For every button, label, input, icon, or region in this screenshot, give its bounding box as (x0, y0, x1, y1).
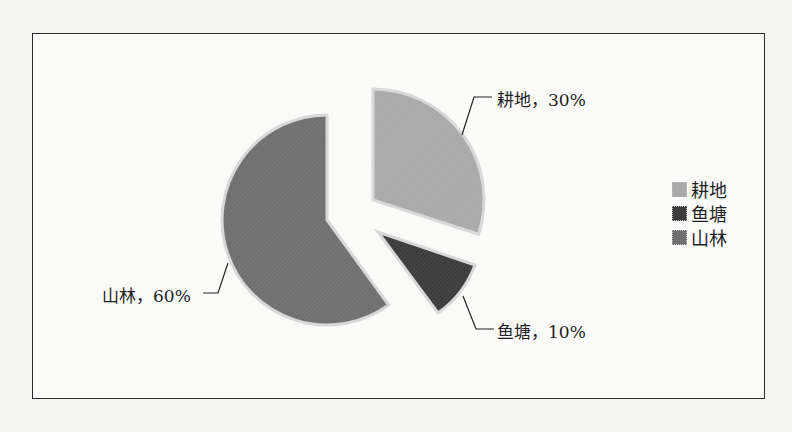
legend-item-farmland[interactable]: 耕地 (672, 177, 727, 201)
slice-fishpond[interactable] (378, 232, 475, 313)
legend-label: 鱼塘 (691, 200, 727, 226)
slice-forest[interactable] (222, 115, 389, 325)
legend-label: 山林 (691, 224, 727, 250)
legend-swatch-farmland (672, 182, 687, 197)
leader-line-forest (203, 263, 228, 293)
slice-farmland[interactable] (373, 89, 484, 234)
leader-line-farmland (462, 97, 492, 135)
legend-item-fishpond[interactable]: 鱼塘 (672, 201, 727, 225)
data-label-forest: 山林，60% (102, 282, 191, 307)
legend-swatch-forest (672, 230, 687, 245)
legend-swatch-fishpond (672, 206, 687, 221)
legend-item-forest[interactable]: 山林 (672, 225, 727, 249)
data-label-farmland: 耕地，30% (497, 86, 586, 111)
legend-label: 耕地 (691, 176, 727, 202)
data-label-fishpond: 鱼塘，10% (497, 318, 586, 343)
leader-line-fishpond (463, 296, 494, 329)
legend: 耕地 鱼塘 山林 (672, 177, 727, 249)
